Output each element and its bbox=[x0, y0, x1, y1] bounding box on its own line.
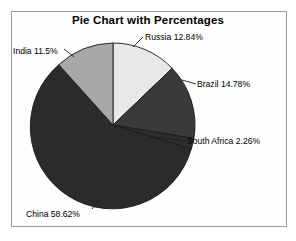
pie-label-brazil: Brazil 14.78% bbox=[197, 79, 250, 89]
leader-line-russia bbox=[133, 37, 143, 47]
pie-label-china: China 58.62% bbox=[26, 209, 80, 219]
pie-label-india: India 11.5% bbox=[13, 46, 58, 56]
pie-slices bbox=[30, 43, 195, 209]
leader-line-india bbox=[64, 49, 74, 57]
pie-chart-figure: Pie Chart with Percentages bbox=[0, 0, 296, 241]
pie-label-south-africa: South Africa 2.26% bbox=[187, 136, 260, 146]
pie-label-russia: Russia 12.84% bbox=[145, 32, 203, 42]
